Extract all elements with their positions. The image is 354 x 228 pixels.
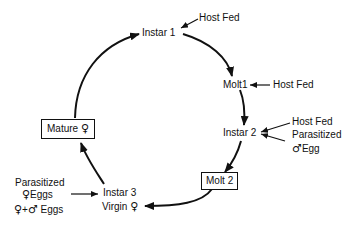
male-symbol-icon: ♂ — [292, 142, 302, 155]
stage-mature-label: Mature — [47, 123, 78, 134]
arrow-parasitized-to-instar2 — [261, 134, 285, 141]
female-symbol-icon: ♀ — [81, 122, 89, 135]
input-hostfed-molt1: Host Fed — [273, 79, 314, 91]
input-parasitized-instar2: Parasitized — [292, 129, 341, 141]
arrow-hostfed-to-instar2 — [261, 123, 290, 132]
eggs-label: Eggs — [41, 204, 64, 215]
cycle-arrows — [0, 0, 354, 228]
female-symbol-icon: ♀ — [22, 188, 30, 201]
egg-label: Egg — [302, 143, 320, 154]
input-female-eggs-instar3: ♀Eggs — [22, 189, 53, 201]
input-mixed-eggs-instar3: ♀+♂ Eggs — [14, 204, 63, 216]
arrow-instar3-to-mature — [81, 143, 104, 184]
eggs-label: Eggs — [30, 189, 53, 200]
virgin-label: Virgin — [102, 201, 127, 212]
stage-instar3-virgin: Virgin ♀ — [102, 201, 138, 213]
stage-instar3: Instar 3 — [103, 187, 136, 199]
female-symbol-icon: ♀ — [130, 200, 138, 213]
stage-instar1: Instar 1 — [142, 27, 175, 39]
arrow-instar1-to-molt1 — [183, 34, 232, 76]
stage-mature-box: Mature ♀ — [41, 119, 95, 139]
input-hostfed-instar1: Host Fed — [199, 12, 240, 24]
input-hostfed-instar2: Host Fed — [292, 116, 333, 128]
female-symbol-icon: ♀ — [14, 203, 22, 216]
arrow-molt1-to-instar2 — [240, 90, 244, 125]
stage-instar2: Instar 2 — [223, 127, 256, 139]
male-symbol-icon: ♂ — [28, 203, 38, 216]
arrow-mature-to-instar1 — [75, 34, 139, 118]
input-male-egg-instar2: ♂Egg — [292, 143, 320, 155]
stage-molt2-label: Molt 2 — [206, 175, 233, 186]
stage-molt2-box: Molt 2 — [201, 172, 238, 190]
stage-molt1: Molt1 — [223, 79, 247, 91]
arrow-instar2-to-molt2 — [225, 141, 241, 172]
arrow-molt2-to-instar3 — [145, 189, 212, 206]
arrow-hostfed-to-instar1 — [181, 19, 198, 28]
